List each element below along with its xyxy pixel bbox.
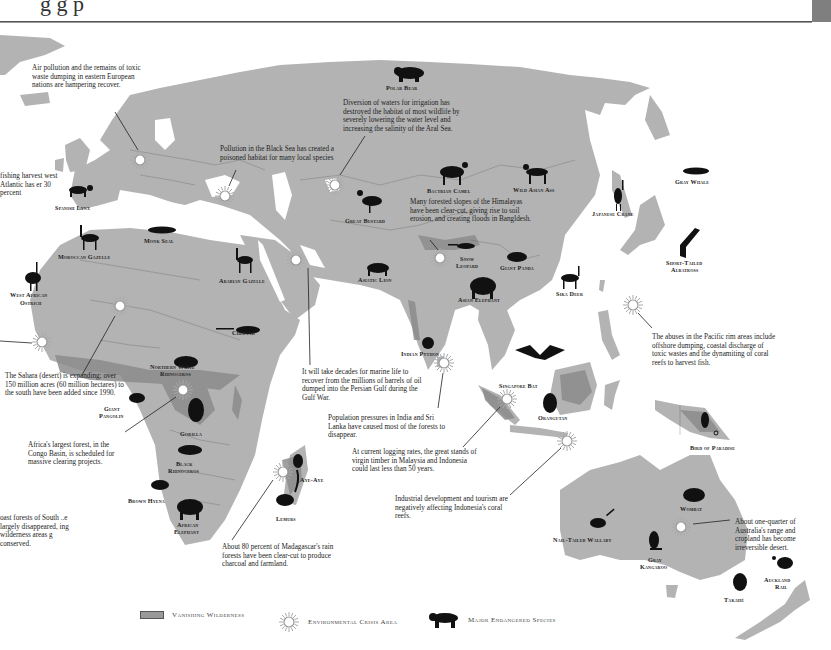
label-albatross-1: Short-Tailed bbox=[666, 259, 702, 266]
note-congo: Africa's largest forest, in the Congo Ba… bbox=[28, 441, 126, 467]
monk-seal-icon bbox=[148, 227, 176, 234]
note-india-srilanka: Population pressures in India and Sri La… bbox=[328, 414, 448, 440]
label-arabian-gazelle: Arabian Gazelle bbox=[219, 277, 265, 284]
note-pacific-rim: The abuses in the Pacific rim areas incl… bbox=[652, 333, 777, 367]
note-indonesia-reefs: Industrial development and tourism are n… bbox=[395, 495, 515, 521]
label-pangolin-2: Pangolin bbox=[99, 412, 124, 419]
note-black-sea: Pollution in the Black Sea has created a… bbox=[220, 145, 335, 162]
crisis-sun-icon bbox=[278, 611, 300, 633]
label-asiatic-lion: Asiatic Lion bbox=[358, 276, 392, 283]
crisis-west-africa bbox=[32, 332, 52, 352]
orangutan-icon bbox=[543, 393, 557, 413]
wombat-icon bbox=[683, 488, 705, 502]
crisis-sahara bbox=[110, 296, 130, 316]
label-brown-hyena: Brown Hyena bbox=[128, 497, 165, 504]
black-rhino-icon bbox=[178, 445, 202, 455]
label-wombat: Wombat bbox=[680, 505, 702, 512]
label-gray-whale: Gray Whale bbox=[675, 178, 709, 185]
crisis-himalayas bbox=[430, 248, 450, 268]
note-aral-sea: Diversion of waters for irrigation has d… bbox=[343, 99, 473, 133]
label-auckland-rail-1: Auckland bbox=[764, 576, 790, 583]
gray-whale-icon bbox=[683, 168, 709, 175]
label-ostrich-1: West African bbox=[10, 291, 47, 298]
note-east-europe: Air pollution and the remains of toxic w… bbox=[32, 64, 142, 90]
crisis-pacific-rim bbox=[623, 295, 643, 315]
note-madagascar: About 80 percent of Madagascar's rain fo… bbox=[222, 543, 337, 569]
crisis-australia bbox=[671, 517, 691, 537]
note-persian-gulf: It will take decades for marine life to … bbox=[302, 368, 427, 402]
albatross-icon bbox=[680, 228, 700, 258]
label-monk-seal: Monk Seal bbox=[144, 237, 174, 244]
legend-crisis-area: Environmental Crisis Area bbox=[278, 611, 397, 633]
label-wallaby: Nail-Tailed Wallaby bbox=[553, 536, 612, 543]
auckland-rail-icon bbox=[772, 556, 793, 569]
label-wild-asian-ass: Wild Asian Ass bbox=[513, 186, 554, 193]
label-lemurs: Lemurs bbox=[276, 515, 296, 522]
label-asian-elephant: Asian Elephant bbox=[458, 296, 500, 303]
note-sahara: The Sahara (desert) is expanding; over 1… bbox=[5, 372, 125, 398]
label-ostrich-2: Ostrich bbox=[20, 299, 42, 306]
takahe-icon bbox=[733, 573, 747, 591]
note-malaysia: At current logging rates, the great stan… bbox=[352, 448, 482, 474]
label-orangutan: Orangutan bbox=[538, 414, 567, 421]
label-singapore-bat: Singapore Bat bbox=[499, 382, 538, 389]
crisis-aral-sea bbox=[325, 175, 345, 195]
note-atlantic-fishing: fishing harvest west Atlantic has er 30 … bbox=[0, 172, 60, 198]
label-gorilla: Gorilla bbox=[180, 430, 202, 437]
note-himalayas: Many forested slopes of the Himalayas ha… bbox=[410, 198, 535, 224]
label-bird-of-paradise: Bird of Paradise bbox=[690, 444, 735, 451]
label-takahe: Takahé bbox=[724, 596, 744, 603]
polar-bear-legend-icon bbox=[428, 611, 460, 629]
note-australia: About one-quarter of Australia's range a… bbox=[735, 518, 815, 552]
singapore-bat-icon bbox=[515, 345, 565, 360]
crisis-persian-gulf bbox=[286, 250, 306, 270]
label-african-elephant-1: African bbox=[177, 521, 198, 528]
label-kangaroo-1: Gray bbox=[648, 556, 662, 563]
label-kangaroo-2: Kangaroo bbox=[640, 563, 667, 570]
sika-deer-icon bbox=[561, 266, 580, 289]
label-cheetah: Cheetah bbox=[232, 329, 255, 336]
label-african-elephant-2: Elephant bbox=[174, 528, 199, 535]
label-nw-rhino-2: Rhinoceros bbox=[160, 370, 191, 377]
label-snow-leopard-2: Leopard bbox=[456, 262, 478, 269]
note-south-america: oast forests of South ..e largely disapp… bbox=[0, 514, 80, 548]
label-aye-aye: Aye-Aye bbox=[300, 476, 324, 483]
crisis-malaysia bbox=[497, 389, 517, 409]
giant-pangolin-icon bbox=[129, 393, 145, 403]
legend-label: Environmental Crisis Area bbox=[308, 618, 397, 626]
giant-panda-icon bbox=[507, 252, 527, 262]
legend-endangered-species: Major Endangered Species bbox=[428, 611, 556, 629]
label-indian-python: Indian Python bbox=[401, 350, 439, 357]
label-bactrian-camel: Bactrian Camel bbox=[427, 187, 471, 194]
legend-label: Vanishing Wilderness bbox=[172, 611, 244, 619]
gorilla-icon bbox=[188, 398, 204, 422]
crisis-madagascar bbox=[273, 462, 293, 482]
label-pangolin-1: Giant bbox=[104, 405, 120, 412]
label-albatross-2: Albatross bbox=[671, 266, 698, 273]
world-map bbox=[0, 0, 831, 650]
legend-label: Major Endangered Species bbox=[468, 616, 556, 624]
label-spanish-lynx: Spanish Lynx bbox=[55, 204, 90, 211]
label-sika-deer: Sika Deer bbox=[556, 290, 583, 297]
aye-aye-icon bbox=[293, 454, 303, 468]
crisis-east-europe bbox=[130, 150, 150, 170]
label-snow-leopard-1: Snow bbox=[460, 255, 474, 262]
label-nw-rhino-1: Northern White bbox=[150, 363, 195, 370]
legend-vanishing-wilderness: Vanishing Wilderness bbox=[140, 611, 244, 619]
label-black-rhino-2: Rhinoceros bbox=[168, 467, 199, 474]
label-great-bustard: Great Bustard bbox=[345, 217, 385, 224]
brown-hyena-icon bbox=[151, 480, 169, 490]
label-japanese-crane: Japanese Crane bbox=[592, 210, 634, 217]
label-polar-bear: Polar Bear bbox=[386, 84, 417, 91]
label-moroccan-gazelle: Moroccan Gazelle bbox=[58, 253, 110, 260]
wilderness-swatch-icon bbox=[140, 611, 164, 619]
label-auckland-rail-2: Rail bbox=[775, 583, 787, 590]
label-black-rhino-1: Black bbox=[176, 460, 193, 467]
crisis-indonesia bbox=[557, 431, 577, 451]
indian-python-icon bbox=[422, 337, 434, 349]
crisis-black-sea bbox=[215, 186, 235, 206]
label-giant-panda: Giant Panda bbox=[500, 264, 534, 271]
